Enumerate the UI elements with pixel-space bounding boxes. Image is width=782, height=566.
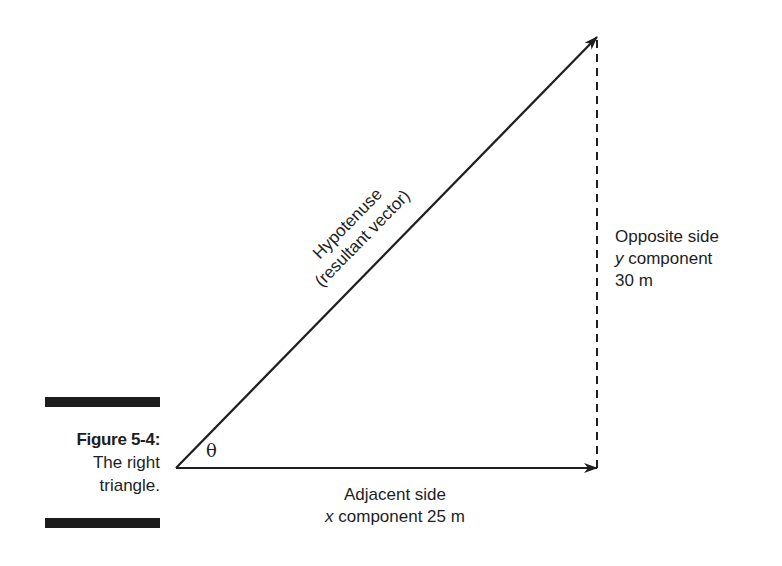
adjacent-line-2-text: component 25 m bbox=[334, 507, 465, 526]
opposite-line-3: 30 m bbox=[615, 270, 719, 292]
angle-theta-label: θ bbox=[206, 440, 217, 462]
opposite-side-label: Opposite side y component 30 m bbox=[615, 226, 719, 292]
opposite-line-2: y component bbox=[615, 248, 719, 270]
opposite-line-2-text: component bbox=[624, 249, 713, 268]
opposite-var: y bbox=[615, 249, 624, 268]
adjacent-line-2: x component 25 m bbox=[310, 506, 480, 528]
hypotenuse-vector bbox=[176, 37, 597, 468]
adjacent-var: x bbox=[325, 507, 334, 526]
adjacent-line-1: Adjacent side bbox=[310, 484, 480, 506]
opposite-line-1: Opposite side bbox=[615, 226, 719, 248]
adjacent-side-label: Adjacent side x component 25 m bbox=[310, 484, 480, 528]
